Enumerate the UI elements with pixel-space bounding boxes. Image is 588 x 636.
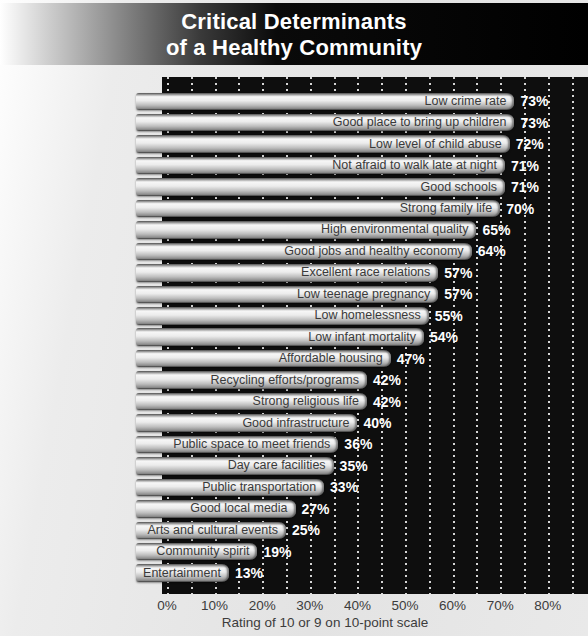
bar-value: 71% <box>511 158 539 174</box>
x-tick-label: 50% <box>391 598 418 613</box>
bar: Not afraid to walk late at night <box>136 157 505 175</box>
bar: Arts and cultural events <box>136 522 286 540</box>
bar: Low teenage pregnancy <box>136 286 438 304</box>
bar-value: 65% <box>482 222 510 238</box>
gridline <box>500 77 502 594</box>
bar-label: Recycling efforts/programs <box>210 372 366 389</box>
bar-label: Public space to meet friends <box>173 436 338 453</box>
x-tick-label: 80% <box>534 598 561 613</box>
bar: Good jobs and healthy economy <box>136 243 472 261</box>
bar-value: 25% <box>292 522 320 538</box>
chart-title-line1: Critical Determinants <box>0 9 588 35</box>
bar-value: 73% <box>520 115 548 131</box>
bar-label: Not afraid to walk late at night <box>332 157 505 174</box>
bar: Good infrastructure <box>136 414 357 432</box>
gridline <box>524 77 526 594</box>
bar-value: 27% <box>302 501 330 517</box>
bar-label: Strong religious life <box>253 393 367 410</box>
bar: Good schools <box>136 178 505 196</box>
bar: Low crime rate <box>136 93 514 111</box>
bar-label: Low crime rate <box>424 93 514 110</box>
bar-label: Low homelessness <box>314 307 428 324</box>
bar: Entertainment <box>136 564 229 582</box>
bar-value: 42% <box>373 372 401 388</box>
bar-label: Arts and cultural events <box>147 522 286 539</box>
x-tick-label: 60% <box>439 598 466 613</box>
bar-value: 13% <box>235 565 263 581</box>
bar-label: Low infant mortality <box>308 329 424 346</box>
x-tick-label: 40% <box>344 598 371 613</box>
bar-value: 40% <box>363 415 391 431</box>
bar-value: 72% <box>516 136 544 152</box>
bar-label: Public transportation <box>202 479 324 496</box>
bar: High environmental quality <box>136 221 476 239</box>
bar-value: 36% <box>344 436 372 452</box>
bar-label: Good infrastructure <box>242 415 357 432</box>
bar-value: 47% <box>397 351 425 367</box>
bar-label: Low level of child abuse <box>369 136 510 153</box>
bar: Day care facilities <box>136 457 334 475</box>
bar-label: Entertainment <box>143 565 229 582</box>
bar: Low homelessness <box>136 307 429 325</box>
bar: Good place to bring up children <box>136 114 514 132</box>
bar-value: 57% <box>444 265 472 281</box>
bar-label: Good local media <box>190 500 295 517</box>
gridline <box>572 77 574 594</box>
bar-label: Day care facilities <box>228 457 334 474</box>
chart-title-line2: of a Healthy Community <box>0 35 588 61</box>
x-tick-label: 70% <box>487 598 514 613</box>
bar-value: 35% <box>340 458 368 474</box>
bar-label: Good jobs and healthy economy <box>284 243 471 260</box>
bar-label: Low teenage pregnancy <box>297 286 438 303</box>
bar: Public transportation <box>136 479 324 497</box>
bar-value: 54% <box>430 329 458 345</box>
bar: Low level of child abuse <box>136 135 510 153</box>
bar-value: 57% <box>444 286 472 302</box>
x-tick-label: 0% <box>157 598 177 613</box>
gridline <box>476 77 478 594</box>
bar-label: Strong family life <box>400 200 500 217</box>
bar: Community spirit <box>136 543 257 561</box>
bar-label: Good schools <box>421 179 505 196</box>
bar: Excellent race relations <box>136 264 438 282</box>
x-axis-caption: Rating of 10 or 9 on 10-point scale <box>222 615 428 630</box>
bar: Recycling efforts/programs <box>136 371 367 389</box>
bar-value: 19% <box>263 544 291 560</box>
bar: Affordable housing <box>136 350 391 368</box>
bar: Strong family life <box>136 200 500 218</box>
bar-label: Excellent race relations <box>301 264 438 281</box>
bar: Low infant mortality <box>136 328 424 346</box>
bar-label: High environmental quality <box>321 221 476 238</box>
bar: Good local media <box>136 500 296 518</box>
bar-label: Affordable housing <box>279 350 391 367</box>
bar-value: 71% <box>511 179 539 195</box>
bar-value: 73% <box>520 93 548 109</box>
bar: Public space to meet friends <box>136 436 338 454</box>
title-banner: Critical Determinants of a Healthy Commu… <box>0 3 588 65</box>
bar-value: 70% <box>506 201 534 217</box>
gridline <box>548 77 550 594</box>
bar-label: Good place to bring up children <box>333 114 515 131</box>
chart-title: Critical Determinants of a Healthy Commu… <box>0 3 588 61</box>
bar-value: 64% <box>478 243 506 259</box>
x-tick-label: 20% <box>249 598 276 613</box>
bar-value: 55% <box>435 308 463 324</box>
bar-label: Community spirit <box>156 543 257 560</box>
bar-value: 33% <box>330 479 358 495</box>
x-tick-label: 10% <box>201 598 228 613</box>
x-tick-label: 30% <box>296 598 323 613</box>
bar: Strong religious life <box>136 393 367 411</box>
bar-value: 42% <box>373 394 401 410</box>
